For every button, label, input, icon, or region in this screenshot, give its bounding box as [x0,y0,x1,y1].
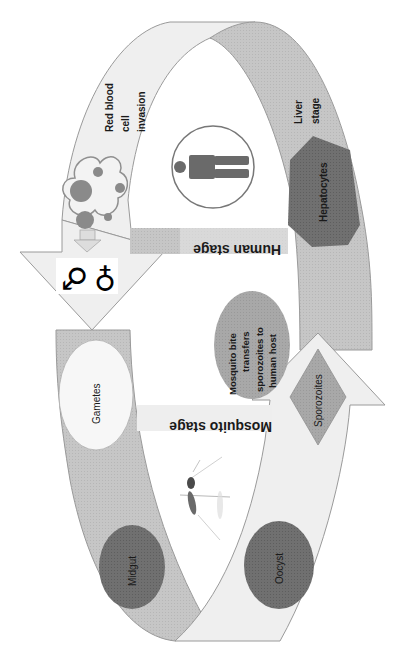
svg-text:Sporozoites: Sporozoites [313,374,324,427]
svg-text:Red blood: Red blood [104,83,115,132]
svg-text:Midgut: Midgut [127,556,138,586]
human-icon [172,126,254,208]
hepatocytes-node: Hepatocytes [288,136,360,247]
svg-text:Gametes: Gametes [91,383,102,424]
svg-text:Mosquito bite: Mosquito bite [227,333,238,395]
svg-text:Liver: Liver [293,100,304,124]
sex-symbols: ♂ ♀ [56,258,118,297]
midgut-node: Midgut [99,525,165,609]
svg-text:sporozoites to: sporozoites to [254,327,265,392]
life-cycle-diagram: Human stage Mosquito stage Red blood cel… [0,0,404,661]
female-icon: ♀ [94,262,116,297]
oocyst-node: Oocyst [244,521,314,609]
svg-text:transfers: transfers [240,331,251,372]
gametes-node: Gametes [59,340,133,450]
svg-text:cell: cell [120,115,131,132]
human-stage-label: Human stage [193,242,281,258]
svg-text:Hepatocytes: Hepatocytes [318,162,329,222]
svg-text:stage: stage [310,97,321,124]
mosquito-stage-label: Mosquito stage [169,419,272,435]
svg-text:invasion: invasion [136,91,147,132]
svg-text:human host: human host [267,333,278,388]
svg-text:Oocyst: Oocyst [274,553,285,584]
mosquito-bite-node: Mosquito bite transfers sporozoites to h… [214,291,290,399]
mosquito-icon [180,457,230,540]
male-icon: ♂ [61,261,88,296]
